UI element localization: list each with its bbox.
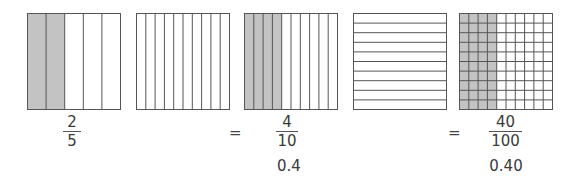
numerator: 2 (63, 114, 81, 130)
numerator: 40 (489, 114, 522, 130)
equals-sign: = (448, 124, 461, 142)
tenths-model-unshaded (136, 13, 230, 110)
grid-fifths (27, 13, 120, 109)
denominator: 5 (63, 133, 81, 149)
denominator: 10 (276, 133, 298, 149)
tenths-rows-model-unshaded (353, 13, 447, 110)
grid-tenths (244, 13, 337, 109)
fraction-four-tenths: 4 10 (276, 114, 298, 149)
grid-tenths-blank (136, 13, 229, 109)
denominator: 100 (489, 133, 522, 149)
equals-sign: = (229, 124, 242, 142)
grid-tenths-rows (353, 13, 446, 109)
decimal-0-40: 0.40 (488, 157, 524, 175)
decimal-0-4: 0.4 (276, 157, 302, 175)
fraction-forty-hundredths: 40 100 (489, 114, 522, 149)
numerator: 4 (276, 114, 298, 130)
hundredths-model-40-shaded (459, 13, 553, 110)
grid-hundredths (459, 13, 552, 109)
tenths-model-4-shaded (244, 13, 338, 110)
fifths-model-2-shaded (27, 13, 121, 110)
fraction-two-fifths: 2 5 (63, 114, 81, 149)
